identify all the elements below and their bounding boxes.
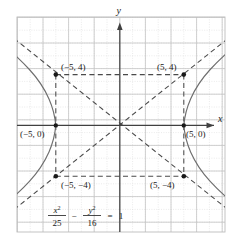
x-axis-label: x <box>217 113 223 124</box>
point-corner-top-right <box>182 72 187 77</box>
graph-canvas: x y (−5, 4) (5, 4) (−5, 0) (5, 0) (−5, −… <box>0 0 243 247</box>
equation-rhs: 1 <box>119 211 124 221</box>
hyperbola-figure: x y (−5, 4) (5, 4) (−5, 0) (5, 0) (−5, −… <box>0 0 243 247</box>
equation-y-exp: 2 <box>93 205 96 211</box>
equation-equals: = <box>107 211 112 221</box>
point-vertex-left <box>54 123 58 127</box>
equation-x-exp: 2 <box>58 205 61 211</box>
point-corner-bottom-left <box>54 174 59 179</box>
equation-y-den: 16 <box>88 218 98 228</box>
equation-x-den: 25 <box>53 218 63 228</box>
point-corner-top-left <box>54 72 59 77</box>
label-corner-top-left: (−5, 4) <box>61 62 86 72</box>
label-corner-bottom-left: (−5, −4) <box>61 180 91 190</box>
label-corner-top-right: (5, 4) <box>157 62 177 72</box>
point-corner-bottom-right <box>182 174 187 179</box>
y-axis-label: y <box>116 5 122 16</box>
label-vertex-right: (5, 0) <box>186 129 206 139</box>
label-corner-bottom-right: (5, −4) <box>150 180 175 190</box>
point-vertex-right <box>182 123 186 127</box>
equation-minus: − <box>71 211 76 221</box>
label-vertex-left: (−5, 0) <box>20 129 45 139</box>
